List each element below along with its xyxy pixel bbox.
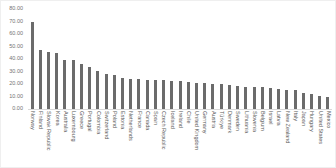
bar-area <box>53 9 61 109</box>
x-axis-category-label: Denmark <box>227 111 233 167</box>
x-axis-category-label: Switzerland <box>103 111 109 167</box>
x-axis-category-label: United States <box>317 111 323 167</box>
x-axis-category-label: Latvia <box>276 111 282 167</box>
y-axis-tick-label: 80.00 <box>9 6 23 12</box>
bar-area <box>225 9 233 109</box>
bar-area <box>36 9 44 109</box>
bar-area <box>307 9 315 109</box>
x-axis-category-label: Italy <box>292 111 298 167</box>
bar-column: Netherlands <box>127 9 135 167</box>
bar <box>326 97 329 109</box>
bar-column: Norway <box>28 9 36 167</box>
bar <box>253 87 256 109</box>
x-axis-category-label: Lithuania <box>243 111 249 167</box>
bar-area <box>184 9 192 109</box>
bar-column: Estonia <box>118 9 126 167</box>
bar <box>113 75 116 109</box>
bar-column: Austria <box>209 9 217 167</box>
bar <box>236 86 239 109</box>
y-axis-tick-label: 10.00 <box>9 94 23 100</box>
bar-area <box>102 9 110 109</box>
bar <box>80 64 83 109</box>
x-axis-category-label: Colombia <box>95 111 101 167</box>
bar-area <box>291 9 299 109</box>
bar-column: Switzerland <box>102 9 110 167</box>
x-axis-category-label: Poland <box>112 111 118 167</box>
x-axis-category-label: Canada <box>144 111 150 167</box>
bar <box>105 74 108 109</box>
x-axis-category-label: Estonia <box>120 111 126 167</box>
x-axis-category-label: Norway <box>29 111 35 167</box>
bar-area <box>316 9 324 109</box>
bar-column: Australia <box>61 9 69 167</box>
bar-column: Slovenia <box>250 9 258 167</box>
y-axis-tick-label: 50.00 <box>9 44 23 50</box>
bar-area <box>233 9 241 109</box>
bar-area <box>160 9 168 109</box>
bar <box>88 67 91 109</box>
bar-area <box>168 9 176 109</box>
x-axis-category-label: Austria <box>210 111 216 167</box>
x-axis-category-label: Slovenia <box>251 111 257 167</box>
bar-column: Latvia <box>275 9 283 167</box>
bar <box>294 90 297 109</box>
x-axis-category-label: Portugal <box>87 111 93 167</box>
bar <box>162 80 165 109</box>
x-axis-category-label: Japan <box>301 111 307 167</box>
bar-column: Portugal <box>86 9 94 167</box>
bar <box>302 93 305 109</box>
bar-area <box>201 9 209 109</box>
x-axis-category-label: Israel <box>268 111 274 167</box>
bar-column: Slovak Republic <box>44 9 52 167</box>
x-axis-category-label: Finland <box>38 111 44 167</box>
bar <box>261 87 264 109</box>
bar <box>39 50 42 109</box>
bar <box>179 81 182 109</box>
bar <box>63 60 66 110</box>
bar-column: Hungary <box>307 9 315 167</box>
bar-area <box>44 9 52 109</box>
bar-area <box>77 9 85 109</box>
bar-area <box>324 9 332 109</box>
bar-area <box>151 9 159 109</box>
bar <box>154 80 157 109</box>
x-axis-category-label: Greece <box>79 111 85 167</box>
bar <box>244 87 247 109</box>
bar <box>211 84 214 109</box>
x-axis-category-label: Spain <box>153 111 159 167</box>
bar-column: Japan <box>299 9 307 167</box>
bar-column: Colombia <box>94 9 102 167</box>
bar-column: Ireland <box>176 9 184 167</box>
bar <box>277 89 280 109</box>
bar <box>47 52 50 109</box>
bar-column: Poland <box>110 9 118 167</box>
bar-column: Chile <box>184 9 192 167</box>
bar-area <box>69 9 77 109</box>
bar-area <box>110 9 118 109</box>
bar <box>310 94 313 109</box>
x-axis-category-label: Iceland <box>169 111 175 167</box>
bar-area <box>192 9 200 109</box>
x-axis-category-label: Netherlands <box>128 111 134 167</box>
y-axis-tick-label: 60.00 <box>9 31 23 37</box>
bar <box>195 83 198 109</box>
bar-column: Luxembourg <box>69 9 77 167</box>
bar-column: Canada <box>143 9 151 167</box>
bar-column: Germany <box>201 9 209 167</box>
bar-column: Belgium <box>258 9 266 167</box>
bar-area <box>86 9 94 109</box>
bar-column: Israel <box>266 9 274 167</box>
bar <box>187 82 190 109</box>
x-axis-category-label: Belgium <box>259 111 265 167</box>
bar-column: Denmark <box>225 9 233 167</box>
bar <box>228 85 231 109</box>
bar <box>220 84 223 109</box>
bar-area <box>266 9 274 109</box>
x-axis-category-label: Hungary <box>309 111 315 167</box>
bar-column: Greece <box>77 9 85 167</box>
bar-area <box>118 9 126 109</box>
y-axis-tick-label: 0.00 <box>12 106 23 112</box>
y-axis-tick-label: 70.00 <box>9 19 23 25</box>
bar-column: Korea <box>53 9 61 167</box>
y-axis-tick-label: 40.00 <box>9 56 23 62</box>
